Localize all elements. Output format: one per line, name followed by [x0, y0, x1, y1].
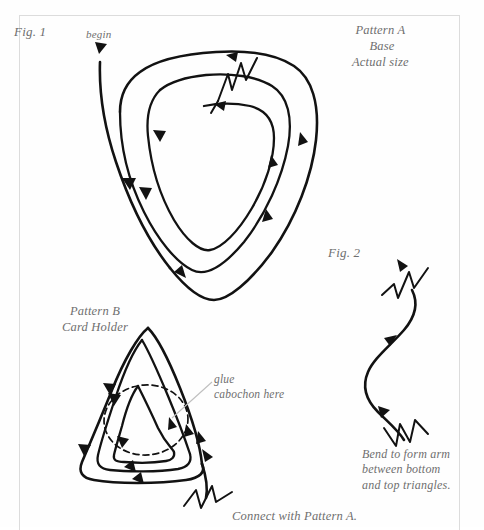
- fig3-arrow-inner-right: [168, 417, 177, 430]
- fig1-middle-loop: [120, 74, 290, 272]
- fig1-outer-loop: [120, 52, 317, 300]
- fig2-s-curve: [365, 290, 415, 440]
- pattern-b-label: Pattern B Card Holder: [62, 303, 128, 335]
- fig2-arrow-up: [397, 259, 408, 272]
- begin-label: begin: [86, 27, 111, 41]
- fig1-arrow-begin: [95, 42, 107, 54]
- fig1-arrow-inner-left: [153, 130, 166, 142]
- fig1-label: Fig. 1: [14, 24, 46, 41]
- fig3-spiral-group: [78, 328, 232, 508]
- fig3-middle-loop: [98, 340, 191, 471]
- fig1-zigzag-terminus: [218, 58, 257, 101]
- glue-cabochon-label: glue cabochon here: [214, 372, 284, 401]
- fig1-zigzag-stub: [211, 101, 218, 113]
- fig3-tail: [202, 464, 207, 498]
- fig1-arrow-outer-right: [298, 132, 308, 146]
- fig1-spiral-group: [95, 42, 317, 300]
- fig2-label: Fig. 2: [328, 245, 360, 262]
- fig3-arrow-outer-left: [103, 383, 116, 395]
- glue-leader-line: [172, 382, 212, 418]
- fig3-arrow-inner-left: [117, 436, 129, 448]
- fig1-arrow-outer-top: [226, 52, 238, 62]
- fig2-wire-group: [365, 259, 428, 446]
- fig3-arrow-outer-right: [196, 431, 206, 444]
- bend-instruction-label: Bend to form arm between bottom and top …: [362, 447, 451, 493]
- fig1-arrow-middle-left: [139, 187, 152, 200]
- connect-instruction-label: Connect with Pattern A.: [232, 508, 357, 524]
- fig3-arrow-tail-up: [202, 449, 213, 462]
- fig3-arrow-outer-lowleft: [78, 444, 91, 456]
- fig2-zigzag-top: [382, 268, 428, 298]
- pattern-a-label: Pattern A Base Actual size: [352, 22, 409, 70]
